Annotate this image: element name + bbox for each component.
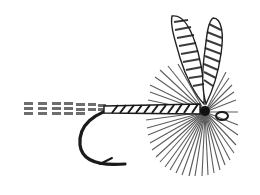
body [104, 104, 200, 114]
tail [24, 102, 106, 115]
fly-drawing [0, 0, 260, 195]
fly-illustration: Dry fly fishing lure illustration [0, 0, 260, 195]
hook [80, 108, 125, 164]
wings [172, 16, 223, 104]
